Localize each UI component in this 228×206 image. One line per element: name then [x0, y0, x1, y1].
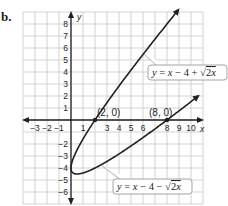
y-tick-label: 2	[63, 91, 68, 101]
y-tick-label: −3	[58, 151, 68, 161]
curves	[71, 8, 200, 174]
y-tick-label: 5	[63, 55, 68, 65]
y-tick-label: 7	[63, 31, 68, 41]
intercept-point	[165, 118, 169, 122]
x-axis-label: x	[199, 124, 205, 134]
y-tick-label: −4	[58, 163, 68, 173]
x-tick-label: 5	[129, 123, 134, 133]
equation-box-lower-text: y = x − 4 − √2x	[116, 181, 181, 192]
y-tick-label: 8	[63, 19, 68, 29]
x-tick-label: 9	[177, 123, 182, 133]
y-tick-label: 3	[63, 79, 68, 89]
x-tick-label: 6	[141, 123, 146, 133]
x-tick-label: 8	[165, 123, 170, 133]
y-tick-label: −2	[58, 139, 68, 149]
graph: yx −3−2−113456891087654321−2−3−4−5−6 (2,…	[0, 0, 228, 206]
x-tick-label: 1	[81, 123, 86, 133]
intercept-point	[93, 118, 97, 122]
point-label-8-0: (8, 0)	[149, 107, 172, 118]
x-tick-label: −1	[54, 123, 64, 133]
x-tick-label: −3	[30, 123, 40, 133]
annotations: (2, 0)(8, 0)y = x − 4 + √2xy = x − 4 − √…	[93, 54, 227, 194]
equation-box-lower-leader	[101, 165, 132, 180]
y-tick-label: 4	[63, 67, 68, 77]
y-tick-label: 1	[63, 103, 68, 113]
y-axis-label: y	[76, 12, 82, 22]
y-tick-label: −5	[58, 175, 68, 185]
y-tick-label: −6	[58, 187, 68, 197]
point-label-2-0: (2, 0)	[97, 107, 120, 118]
x-tick-label: 4	[117, 123, 122, 133]
x-tick-label: −2	[42, 123, 52, 133]
x-tick-label: 3	[105, 123, 110, 133]
x-tick-label: 10	[186, 123, 196, 133]
y-tick-label: 6	[63, 43, 68, 53]
equation-box-upper-text: y = x − 4 + √2x	[151, 67, 216, 78]
